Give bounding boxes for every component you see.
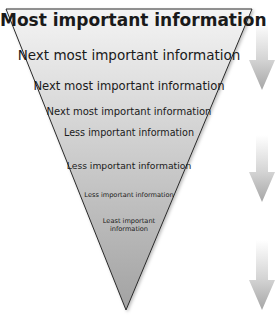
level-least-important: Least important information xyxy=(96,217,162,233)
level-next-most-important-2: Next most important information xyxy=(0,81,258,93)
level-next-most-important-1: Next most important information xyxy=(0,49,258,63)
level-most-important: Most important information xyxy=(0,12,258,29)
level-next-most-important-3: Next most important information xyxy=(0,107,258,117)
level-less-important-2: Less important information xyxy=(0,161,258,170)
level-less-important-3: Less important information xyxy=(0,192,258,199)
arrow-3-icon xyxy=(249,240,275,310)
level-less-important-1: Less important information xyxy=(0,128,258,138)
